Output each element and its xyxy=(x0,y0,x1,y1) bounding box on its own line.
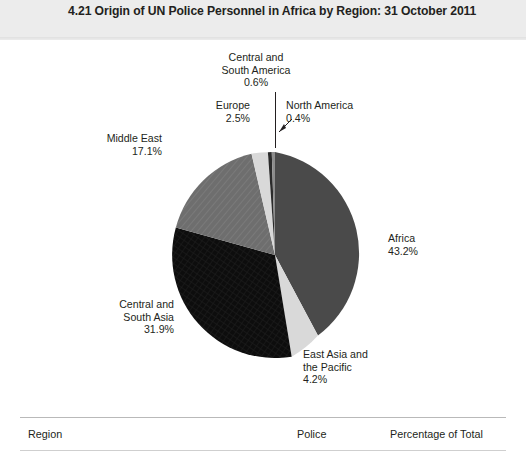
pie-graphic xyxy=(172,152,378,358)
pie-label-east-asia-and-the-pacific: East Asia and the Pacific 4.2% xyxy=(303,348,423,386)
pie-label-north-america: North America 0.4% xyxy=(286,99,406,124)
figure-title: 4.21 Origin of UN Police Personnel in Af… xyxy=(68,4,476,18)
data-table: Region Police Percentage of Total xyxy=(0,410,526,457)
table-header-police: Police xyxy=(297,428,326,440)
table-header-rule xyxy=(20,450,506,451)
pie-label-central-and-south-america: Central and South America 0.6% xyxy=(196,51,316,89)
leader-line-central-south-america xyxy=(275,92,276,148)
table-header-percentage-of-total: Percentage of Total xyxy=(390,428,483,440)
pie-label-middle-east: Middle East 17.1% xyxy=(58,132,162,157)
pie-svg xyxy=(172,152,378,358)
pie-label-central-and-south-asia: Central and South Asia 31.9% xyxy=(48,298,174,336)
pie-label-africa: Africa 43.2% xyxy=(388,232,498,257)
table-header-region: Region xyxy=(28,428,62,440)
figure-header-band: 4.21 Origin of UN Police Personnel in Af… xyxy=(0,0,526,40)
pie-chart-figure: Central and South America 0.6% Europe 2.… xyxy=(0,40,526,410)
table-top-rule xyxy=(20,417,506,418)
pie-label-europe: Europe 2.5% xyxy=(150,99,250,124)
